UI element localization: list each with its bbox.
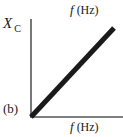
plot-area <box>0 0 123 137</box>
data-line-xc-vs-f <box>31 28 114 117</box>
figure-panel-b: XC f(Hz) f(Hz) (b) <box>0 0 123 137</box>
